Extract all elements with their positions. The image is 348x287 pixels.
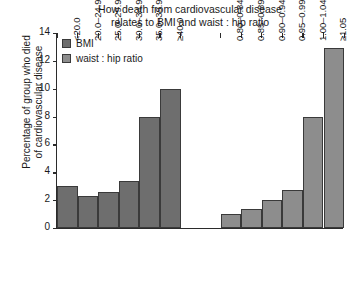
bar — [98, 192, 119, 228]
x-tick-label: 1.00–1.04 — [317, 0, 328, 41]
x-tick-label: 30.0–34.9 — [133, 0, 144, 41]
y-tick-mark — [53, 144, 57, 145]
y-tick-label: 0 — [44, 221, 50, 232]
x-tick-label: 0.90–0.94 — [276, 0, 287, 41]
legend-item-bmi: BMI — [62, 36, 143, 50]
y-tick-label: 4 — [44, 165, 50, 176]
y-tick-label: 6 — [44, 137, 50, 148]
y-tick-label: 10 — [39, 82, 50, 93]
bar — [78, 196, 99, 228]
bar — [241, 209, 262, 229]
bar — [160, 89, 181, 228]
bar — [221, 214, 242, 228]
x-tick-label: 25.0–29.9 — [112, 0, 123, 41]
legend-item-waist-hip-ratio: waist : hip ratio — [62, 51, 143, 65]
chart-figure: How death from cardiovascular disease re… — [0, 0, 348, 287]
y-tick-mark — [53, 117, 57, 118]
bar — [139, 117, 160, 228]
x-tick-label: ≥40.0 — [174, 18, 185, 41]
y-tick-label: 2 — [44, 193, 50, 204]
x-axis-line — [56, 228, 343, 229]
x-tick-label: 0.85–0.89 — [255, 0, 266, 41]
x-tick-label: 0.80–0.84 — [234, 0, 245, 41]
y-tick-label: 12 — [39, 54, 50, 65]
chart-title-line-2: relates to BMI and waist : hip ratio — [40, 16, 340, 29]
bar — [57, 186, 78, 228]
x-tick-mark — [56, 33, 57, 38]
bar — [282, 190, 303, 228]
y-tick-label: 8 — [44, 110, 50, 121]
bar — [303, 117, 324, 228]
y-tick-mark — [53, 172, 57, 173]
chart-title-line-1: How death from cardiovascular disease — [40, 3, 340, 16]
y-tick-mark — [53, 228, 57, 229]
y-axis-label-line-1: Percentage of group who died — [21, 7, 33, 197]
chart-legend: BMI waist : hip ratio — [62, 36, 143, 66]
y-tick-mark — [53, 89, 57, 90]
legend-swatch-icon-bmi — [62, 39, 71, 48]
x-tick-label: 35.0–39.9 — [153, 0, 164, 41]
chart-title: How death from cardiovascular disease re… — [40, 3, 340, 28]
x-tick-mark — [220, 33, 221, 38]
bar — [119, 181, 140, 228]
legend-label-bmi: BMI — [76, 38, 94, 49]
x-tick-label: 0.95–0.99 — [296, 0, 307, 41]
y-tick-mark — [53, 61, 57, 62]
legend-label-waist-hip-ratio: waist : hip ratio — [76, 53, 143, 64]
x-tick-label: 20.0–24.9 — [92, 0, 103, 41]
bar — [324, 48, 345, 228]
x-tick-label: ≥1.05 — [337, 18, 348, 41]
y-tick-label: 14 — [39, 26, 50, 37]
legend-swatch-icon-waist-hip-ratio — [62, 54, 71, 63]
bar — [262, 200, 283, 228]
